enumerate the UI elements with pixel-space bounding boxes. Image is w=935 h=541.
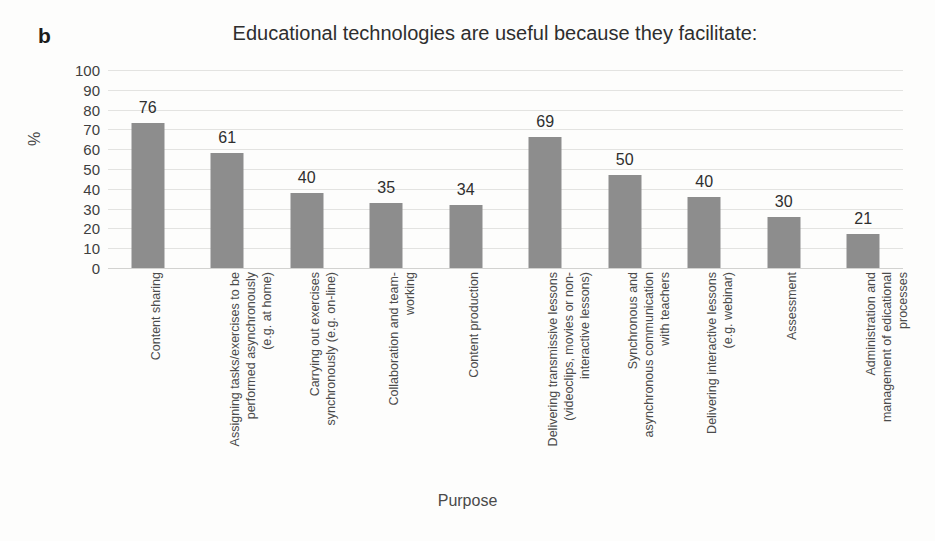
- x-axis-title: Purpose: [0, 492, 935, 510]
- y-tick-label-50: 50: [56, 162, 100, 177]
- y-tick-label-10: 10: [56, 241, 100, 256]
- x-category-label-line: performed asynchronously: [243, 272, 259, 470]
- x-category-label-line: Administration and: [863, 272, 879, 470]
- x-category-slot: Assigning tasks/exercises to beperformed…: [188, 272, 268, 477]
- x-category-label: Assessment: [784, 272, 800, 470]
- x-category-slot: Carrying out exercisessynchronously (e.g…: [267, 272, 347, 477]
- x-category-slot: Delivering transmissive lessons(videocli…: [506, 272, 586, 477]
- x-category-label-line: processes: [895, 272, 911, 470]
- bar-slot: 30: [744, 70, 824, 268]
- plot-area: 76614035346950403021: [108, 70, 903, 268]
- bar-slot: 40: [665, 70, 745, 268]
- x-axis-category-labels: Content sharingAssigning tasks/exercises…: [108, 272, 903, 477]
- x-category-slot: Content sharing: [108, 272, 188, 477]
- bar-value-label: 50: [616, 151, 634, 169]
- bar-slot: 34: [426, 70, 506, 268]
- x-category-label-line: Carrying out exercises: [307, 272, 323, 470]
- bar-value-label: 76: [139, 99, 157, 117]
- x-category-slot: Delivering interactive lessons(e.g. webi…: [665, 272, 745, 477]
- y-tick-label-30: 30: [56, 201, 100, 216]
- y-tick-label-20: 20: [56, 221, 100, 236]
- bar-slot: 61: [188, 70, 268, 268]
- y-tick-label-70: 70: [56, 122, 100, 137]
- bar-value-label: 34: [457, 181, 475, 199]
- y-tick-label-0: 0: [56, 261, 100, 276]
- panel-letter: b: [38, 24, 51, 48]
- y-axis-tick-labels: 1009080706050403020100: [52, 70, 100, 268]
- bar-value-label: 35: [377, 179, 395, 197]
- x-category-label-line: synchronously (e.g. on-line): [323, 272, 339, 470]
- bar-value-label: 21: [854, 210, 872, 228]
- x-category-label-line: (videoclips, movies or non-: [561, 272, 577, 470]
- gridline-0: [108, 268, 903, 269]
- x-category-label-line: Delivering interactive lessons: [704, 272, 720, 470]
- x-category-label: Collaboration and team-working: [386, 272, 418, 470]
- bar[interactable]: [290, 193, 323, 268]
- bar-slot: 50: [585, 70, 665, 268]
- bar-value-label: 30: [775, 193, 793, 211]
- x-category-label-line: Collaboration and team-: [386, 272, 402, 470]
- x-category-label-line: working: [402, 272, 418, 470]
- bar[interactable]: [767, 217, 800, 268]
- x-category-label-line: asynchronous communication: [641, 272, 657, 470]
- y-tick-label-80: 80: [56, 102, 100, 117]
- bar-value-label: 61: [218, 129, 236, 147]
- bar-slot: 76: [108, 70, 188, 268]
- bar-value-label: 40: [298, 169, 316, 187]
- y-tick-label-90: 90: [56, 82, 100, 97]
- y-tick-label-40: 40: [56, 181, 100, 196]
- figure-panel-b: b Educational technologies are useful be…: [0, 0, 935, 541]
- x-category-label-line: Synchronous and: [625, 272, 641, 470]
- y-axis-title: %: [26, 132, 44, 146]
- y-tick-label-100: 100: [56, 63, 100, 78]
- bar-value-label: 40: [695, 173, 713, 191]
- x-category-label: Administration andmanagement of edicatio…: [863, 272, 911, 470]
- x-category-slot: Assessment: [744, 272, 824, 477]
- x-category-slot: Collaboration and team-working: [347, 272, 427, 477]
- y-tick-label-60: 60: [56, 142, 100, 157]
- bar[interactable]: [688, 197, 721, 268]
- bar[interactable]: [608, 175, 641, 268]
- x-category-label: Content sharing: [148, 272, 164, 470]
- x-category-slot: Synchronous andasynchronous communicatio…: [585, 272, 665, 477]
- bar[interactable]: [370, 203, 403, 268]
- bar-slot: 69: [506, 70, 586, 268]
- bar[interactable]: [211, 153, 244, 268]
- bar-slot: 35: [347, 70, 427, 268]
- bar-value-label: 69: [536, 113, 554, 131]
- x-category-label-line: Content production: [466, 272, 482, 470]
- x-category-label-line: management of edicational: [879, 272, 895, 470]
- bar[interactable]: [449, 205, 482, 268]
- x-category-label-line: Assigning tasks/exercises to be: [227, 272, 243, 470]
- x-category-slot: Content production: [426, 272, 506, 477]
- x-category-label-line: Assessment: [784, 272, 800, 470]
- bar[interactable]: [847, 234, 880, 268]
- bar[interactable]: [131, 123, 164, 268]
- bar-slot: 40: [267, 70, 347, 268]
- bar-slot: 21: [824, 70, 904, 268]
- x-category-slot: Administration andmanagement of edicatio…: [824, 272, 904, 477]
- x-category-label: Delivering interactive lessons(e.g. webi…: [704, 272, 736, 470]
- x-category-label-line: (e.g. webinar): [720, 272, 736, 470]
- x-category-label-line: Delivering transmissive lessons: [545, 272, 561, 470]
- x-category-label: Content production: [466, 272, 482, 470]
- x-category-label: Carrying out exercisessynchronously (e.g…: [307, 272, 339, 470]
- chart-title: Educational technologies are useful beca…: [110, 22, 880, 45]
- x-category-label-line: Content sharing: [148, 272, 164, 470]
- bar[interactable]: [529, 137, 562, 268]
